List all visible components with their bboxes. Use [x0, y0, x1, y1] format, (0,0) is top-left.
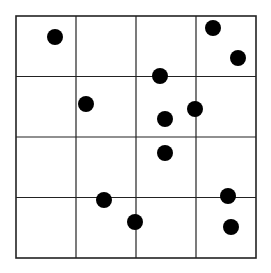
sample-point-dot [96, 192, 112, 208]
sample-point-dot [152, 68, 168, 84]
sample-point-dot [78, 96, 94, 112]
sample-point-dot [205, 20, 221, 36]
sample-point-dot [230, 50, 246, 66]
quadrat-grid-diagram [0, 0, 271, 273]
sample-point-dot [127, 214, 143, 230]
sample-point-dot [220, 188, 236, 204]
sample-point-dot [157, 145, 173, 161]
sample-points [47, 20, 246, 235]
sample-point-dot [157, 111, 173, 127]
sample-point-dot [47, 29, 63, 45]
sample-point-dot [223, 219, 239, 235]
sample-point-dot [187, 101, 203, 117]
